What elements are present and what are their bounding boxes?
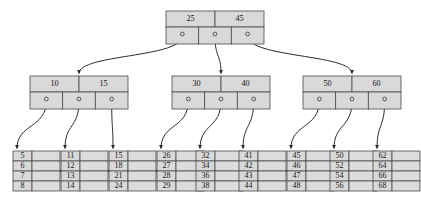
leaf-node-1-blank-cell-2 bbox=[80, 171, 108, 181]
leaf-node-7-value-2: 54 bbox=[336, 171, 344, 180]
leaf-node-2-blank-cell-1 bbox=[128, 161, 156, 171]
leaf-node-3-value-3: 29 bbox=[163, 181, 171, 190]
leaf-node-0-blank-cell-2 bbox=[32, 171, 60, 181]
leaf-layer: 5678111213141518212426272829323436384142… bbox=[13, 151, 420, 191]
leaf-node-4-value-0: 32 bbox=[202, 151, 210, 160]
root-node-key-1: 45 bbox=[235, 14, 243, 23]
leaf-node-5-value-3: 44 bbox=[245, 181, 253, 190]
leaf-node-5-blank-cell-0 bbox=[258, 151, 286, 161]
leaf-node-3-value-2: 28 bbox=[163, 171, 171, 180]
leaf-node-8-blank-cell-2 bbox=[392, 171, 420, 181]
leaf-node-8-value-3: 68 bbox=[379, 181, 387, 190]
leaf-node-1-value-3: 14 bbox=[67, 181, 75, 190]
internal-node-0: 1015 bbox=[30, 76, 128, 109]
leaf-node-5: 41424344 bbox=[239, 151, 286, 191]
leaf-node-6-value-0: 45 bbox=[293, 151, 301, 160]
leaf-node-8-blank-cell-1 bbox=[392, 161, 420, 171]
leaf-node-2-value-3: 24 bbox=[115, 181, 123, 190]
leaf-node-0-value-2: 7 bbox=[21, 171, 25, 180]
leaf-node-0-blank-cell-3 bbox=[32, 181, 60, 191]
leaf-node-6: 45464748 bbox=[287, 151, 334, 191]
internal-node-0-key-0: 10 bbox=[50, 79, 58, 88]
node-layer: 2545101530405060 bbox=[30, 11, 401, 109]
leaf-node-0: 5678 bbox=[13, 151, 60, 191]
internal-node-1: 3040 bbox=[172, 76, 270, 109]
leaf-node-1-blank-cell-3 bbox=[80, 181, 108, 191]
leaf-node-1-blank-cell-0 bbox=[80, 151, 108, 161]
internal-node-0-key-1: 15 bbox=[99, 79, 107, 88]
leaf-node-2-value-2: 21 bbox=[115, 171, 123, 180]
leaf-node-0-value-0: 5 bbox=[21, 151, 25, 160]
leaf-node-2-blank-cell-2 bbox=[128, 171, 156, 181]
leaf-node-8-value-2: 66 bbox=[379, 171, 387, 180]
leaf-node-2-value-0: 15 bbox=[115, 151, 123, 160]
leaf-node-2-value-1: 18 bbox=[115, 161, 123, 170]
leaf-node-1-value-0: 11 bbox=[67, 151, 75, 160]
leaf-node-5-blank-cell-1 bbox=[258, 161, 286, 171]
leaf-node-7: 50525456 bbox=[330, 151, 377, 191]
leaf-node-4-value-1: 34 bbox=[202, 161, 210, 170]
leaf-node-2: 15182124 bbox=[109, 151, 156, 191]
leaf-node-1: 11121314 bbox=[61, 151, 108, 191]
leaf-node-8: 62646668 bbox=[373, 151, 420, 191]
leaf-node-8-blank-cell-3 bbox=[392, 181, 420, 191]
leaf-node-0-blank-cell-0 bbox=[32, 151, 60, 161]
leaf-node-5-value-2: 43 bbox=[245, 171, 253, 180]
leaf-node-7-value-0: 50 bbox=[336, 151, 344, 160]
leaf-node-4: 32343638 bbox=[196, 151, 243, 191]
leaf-node-7-value-1: 52 bbox=[336, 161, 344, 170]
leaf-node-5-blank-cell-3 bbox=[258, 181, 286, 191]
leaf-node-0-value-3: 8 bbox=[21, 181, 25, 190]
leaf-node-8-value-0: 62 bbox=[379, 151, 387, 160]
leaf-node-8-value-1: 64 bbox=[379, 161, 387, 170]
leaf-node-0-value-1: 6 bbox=[21, 161, 25, 170]
leaf-node-3-value-0: 26 bbox=[163, 151, 171, 160]
leaf-node-5-blank-cell-2 bbox=[258, 171, 286, 181]
root-node: 2545 bbox=[166, 11, 264, 44]
root-node-key-0: 25 bbox=[186, 14, 194, 23]
leaf-node-0-blank-cell-1 bbox=[32, 161, 60, 171]
leaf-node-5-value-1: 42 bbox=[245, 161, 253, 170]
leaf-node-8-blank-cell-0 bbox=[392, 151, 420, 161]
leaf-node-2-blank-cell-0 bbox=[128, 151, 156, 161]
leaf-node-4-value-2: 36 bbox=[202, 171, 210, 180]
internal-node-1-key-1: 40 bbox=[241, 79, 249, 88]
leaf-node-4-value-3: 38 bbox=[202, 181, 210, 190]
leaf-node-3-value-1: 27 bbox=[163, 161, 171, 170]
leaf-node-6-value-1: 46 bbox=[293, 161, 301, 170]
leaf-node-6-value-3: 48 bbox=[293, 181, 301, 190]
leaf-node-1-value-1: 12 bbox=[67, 161, 75, 170]
internal-node-2-key-0: 50 bbox=[323, 79, 331, 88]
leaf-node-5-value-0: 41 bbox=[245, 151, 253, 160]
b-plus-tree-diagram: 2545101530405060 56781112131415182124262… bbox=[0, 0, 421, 202]
internal-node-2-key-1: 60 bbox=[372, 79, 380, 88]
internal-node-2: 5060 bbox=[303, 76, 401, 109]
leaf-node-6-value-2: 47 bbox=[293, 171, 301, 180]
leaf-node-1-blank-cell-1 bbox=[80, 161, 108, 171]
leaf-node-1-value-2: 13 bbox=[67, 171, 75, 180]
leaf-node-7-value-3: 56 bbox=[336, 181, 344, 190]
internal-node-1-key-0: 30 bbox=[192, 79, 200, 88]
leaf-node-2-blank-cell-3 bbox=[128, 181, 156, 191]
